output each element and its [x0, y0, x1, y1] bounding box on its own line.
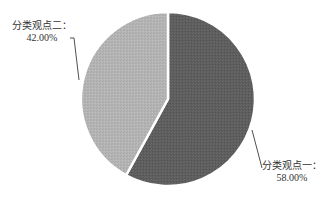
slice-label-2-value: 42.00% — [12, 32, 72, 44]
slice-label-1-value: 58.00% — [262, 172, 322, 184]
leader-line-1 — [252, 130, 262, 168]
slice-label-1-name: 分类观点一： — [262, 160, 322, 172]
slice-label-2-name: 分类观点二： — [12, 20, 72, 32]
leader-line-2 — [70, 38, 79, 80]
slice-label-1: 分类观点一： 58.00% — [262, 160, 322, 184]
slice-label-2: 分类观点二： 42.00% — [12, 20, 72, 44]
